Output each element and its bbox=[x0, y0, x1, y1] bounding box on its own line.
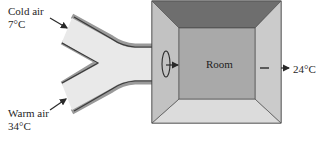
warm-air-label: Warm air bbox=[8, 107, 49, 119]
cold-air-temperature: 7°C bbox=[8, 18, 25, 30]
warm-air-temperature: 34°C bbox=[8, 120, 31, 132]
cold-air-label: Cold air bbox=[8, 5, 44, 17]
mixing-chamber-diagram: Cold air 7°C Warm air 34°C Room 24°C bbox=[0, 0, 320, 141]
cold-air-pointer-arrow bbox=[50, 18, 67, 28]
diagram-canvas bbox=[0, 0, 320, 141]
y-duct bbox=[62, 16, 152, 112]
room-label: Room bbox=[206, 58, 233, 70]
warm-air-pointer-arrow bbox=[50, 99, 66, 110]
outlet-temperature-label: 24°C bbox=[293, 63, 316, 75]
